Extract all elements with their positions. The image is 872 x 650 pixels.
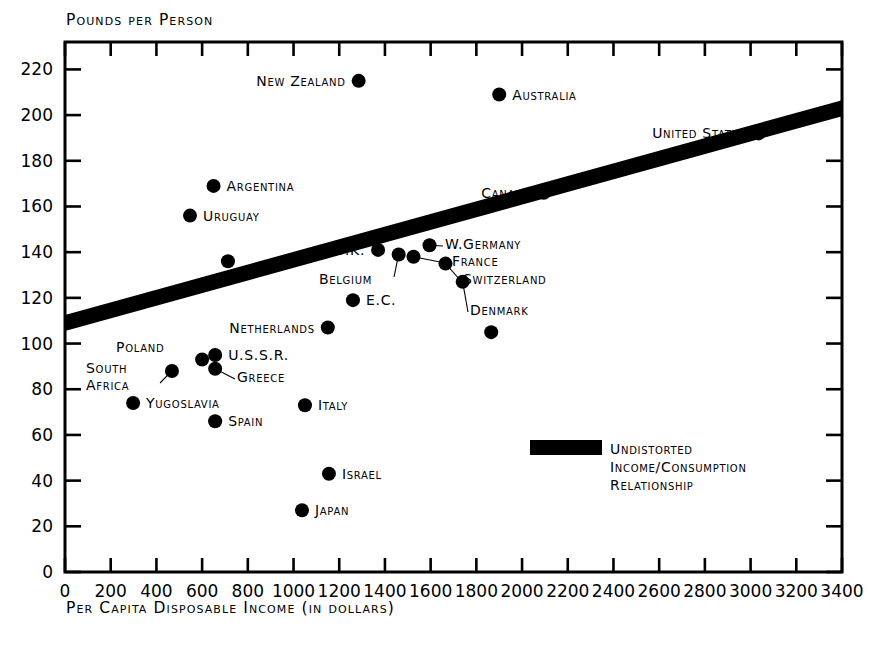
- x-axis-title: Per Capita Disposable Income (in dollars…: [66, 599, 395, 617]
- data-point: [208, 414, 222, 428]
- y-tick-label: 120: [21, 288, 53, 308]
- data-point-label: Yugoslavia: [145, 395, 219, 411]
- data-point: [423, 238, 437, 252]
- data-point: [208, 348, 222, 362]
- scatter-chart: New ZealandAustraliaArgentinaUruguayCana…: [0, 0, 872, 650]
- legend-line-2: Income/Consumption: [610, 459, 747, 475]
- y-tick-label: 0: [42, 562, 53, 582]
- data-point: [439, 257, 453, 271]
- x-tick-label: 2600: [638, 581, 681, 601]
- data-point-label: Japan: [314, 502, 349, 518]
- data-point: [322, 467, 336, 481]
- chart-canvas: New ZealandAustraliaArgentinaUruguayCana…: [0, 0, 872, 650]
- x-tick-label: 1600: [409, 581, 452, 601]
- data-point-label: U.K.: [334, 242, 365, 258]
- data-point: [484, 325, 498, 339]
- y-tick-label: 80: [31, 379, 53, 399]
- x-tick-label: 0: [60, 581, 71, 601]
- data-point: [371, 243, 385, 257]
- data-point: [346, 293, 360, 307]
- data-point: [321, 321, 335, 335]
- x-tick-label: 1200: [318, 581, 361, 601]
- data-point: [207, 179, 221, 193]
- y-tick-label: 220: [21, 59, 53, 79]
- data-point-label: South: [86, 360, 127, 376]
- data-point-label: Uruguay: [203, 208, 260, 224]
- legend-line-3: Relationship: [610, 477, 694, 493]
- data-point-label: Belgium: [319, 271, 372, 287]
- data-point-label: Poland: [116, 339, 164, 355]
- data-point-label: Africa: [86, 377, 129, 393]
- data-point-label: E.C.: [366, 292, 396, 308]
- data-point-label: Canada: [481, 185, 531, 201]
- x-tick-label: 600: [186, 581, 218, 601]
- x-axis-ticks: [65, 42, 842, 572]
- data-point-label: Australia: [512, 87, 576, 103]
- x-tick-label: 800: [232, 581, 264, 601]
- y-tick-label: 160: [21, 196, 53, 216]
- x-tick-label: 3400: [820, 581, 863, 601]
- data-point-label: Denmark: [470, 302, 528, 318]
- data-point: [295, 503, 309, 517]
- data-point: [208, 362, 222, 376]
- x-tick-label: 2400: [592, 581, 635, 601]
- y-tick-label: 100: [21, 334, 53, 354]
- x-axis-tick-labels: 0200400600800100012001400160018002000220…: [60, 581, 864, 601]
- x-tick-label: 2000: [500, 581, 543, 601]
- data-point-label: Israel: [342, 466, 382, 482]
- data-point-label: United States: [652, 125, 745, 141]
- data-point: [298, 398, 312, 412]
- data-point-label: New Zealand: [256, 73, 345, 89]
- y-tick-label: 60: [31, 425, 53, 445]
- x-tick-label: 1400: [363, 581, 406, 601]
- y-axis-tick-labels: 020406080100120140160180200220: [21, 59, 53, 582]
- data-point: [352, 74, 366, 88]
- y-tick-label: 180: [21, 151, 53, 171]
- data-point-label: Italy: [318, 397, 348, 413]
- data-point: [752, 126, 766, 140]
- y-tick-label: 200: [21, 105, 53, 125]
- x-tick-label: 200: [94, 581, 126, 601]
- plot-frame: [65, 42, 842, 572]
- data-point: [126, 396, 140, 410]
- y-tick-label: 40: [31, 471, 53, 491]
- x-tick-label: 3200: [775, 581, 818, 601]
- data-point-label: W.Germany: [445, 236, 521, 252]
- data-point: [221, 254, 235, 268]
- x-tick-label: 1800: [455, 581, 498, 601]
- data-point-label: Spain: [228, 413, 263, 429]
- y-axis-title: Pounds per Person: [66, 11, 213, 29]
- x-tick-label: 400: [140, 581, 172, 601]
- data-point: [183, 209, 197, 223]
- data-point: [492, 88, 506, 102]
- data-point-label: Switzerland: [463, 271, 546, 287]
- data-point-label: Netherlands: [229, 320, 315, 336]
- data-point: [165, 364, 179, 378]
- legend: Undistorted Income/Consumption Relations…: [530, 440, 747, 493]
- data-point-label: France: [452, 253, 498, 269]
- y-tick-label: 20: [31, 516, 53, 536]
- legend-line-1: Undistorted: [610, 441, 693, 457]
- data-point: [537, 186, 551, 200]
- x-tick-label: 1000: [272, 581, 315, 601]
- y-tick-label: 140: [21, 242, 53, 262]
- data-point-label: Argentina: [227, 178, 295, 194]
- x-tick-label: 2800: [683, 581, 726, 601]
- legend-swatch: [530, 440, 602, 455]
- x-tick-label: 2200: [546, 581, 589, 601]
- data-point-label: U.S.S.R.: [228, 347, 289, 363]
- data-point: [407, 250, 421, 264]
- data-point: [392, 247, 406, 261]
- x-tick-label: 3000: [729, 581, 772, 601]
- data-point: [195, 353, 209, 367]
- data-point-label: Greece: [237, 369, 285, 385]
